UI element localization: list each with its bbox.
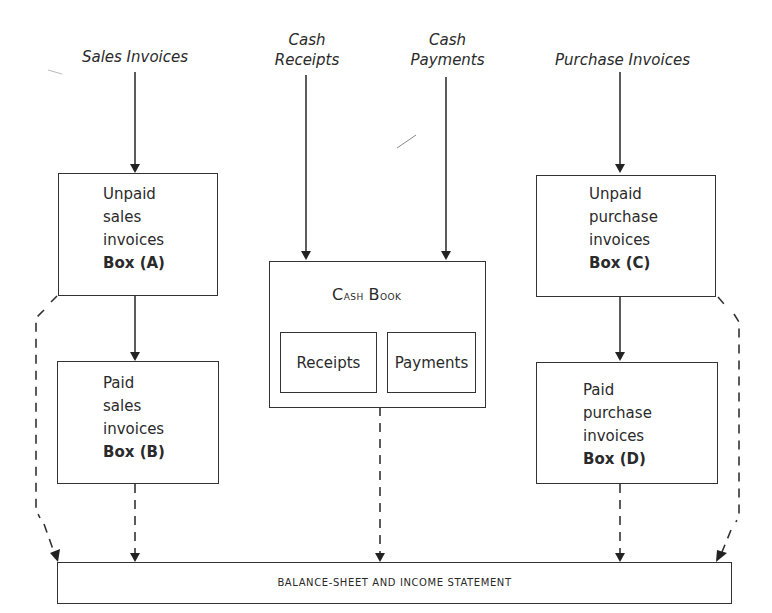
- box-a-unpaid-sales-invoices: Unpaid sales invoices Box (A): [58, 173, 218, 296]
- source-label: Sales Invoices: [82, 48, 188, 66]
- output-label: BALANCE-SHEET AND INCOME STATEMENT: [58, 577, 731, 588]
- box-tag: Box (C): [589, 252, 658, 275]
- source-label-line2: Receipts: [262, 50, 352, 70]
- box-line: invoices: [589, 229, 658, 252]
- accounting-flow-diagram: Sales Invoices Cash Receipts Cash Paymen…: [0, 0, 772, 613]
- box-a-text: Unpaid sales invoices Box (A): [103, 183, 165, 275]
- box-d-text: Paid purchase invoices Box (D): [583, 379, 652, 471]
- title-cap: C: [332, 285, 344, 304]
- box-tag: Box (B): [103, 441, 165, 464]
- box-line: Unpaid: [103, 183, 165, 206]
- cash-book-title: Cash Book: [332, 285, 402, 304]
- source-purchase-invoices: Purchase Invoices: [550, 50, 695, 70]
- balance-sheet-income-statement: BALANCE-SHEET AND INCOME STATEMENT: [57, 562, 732, 604]
- box-b-paid-sales-invoices: Paid sales invoices Box (B): [57, 361, 219, 484]
- box-line: invoices: [103, 418, 165, 441]
- box-line: sales: [103, 395, 165, 418]
- box-d-paid-purchase-invoices: Paid purchase invoices Box (D): [536, 362, 718, 484]
- box-b-text: Paid sales invoices Box (B): [103, 372, 165, 464]
- title-rest: ook: [380, 288, 402, 303]
- source-cash-receipts: Cash Receipts: [262, 30, 352, 70]
- box-line: purchase: [583, 402, 652, 425]
- title-cap: B: [368, 285, 379, 304]
- source-label-line1: Cash: [400, 30, 495, 50]
- receipts-label: Receipts: [297, 354, 361, 372]
- box-c-unpaid-purchase-invoices: Unpaid purchase invoices Box (C): [536, 175, 716, 297]
- box-line: sales: [103, 206, 165, 229]
- box-tag: Box (D): [583, 448, 652, 471]
- source-sales-invoices: Sales Invoices: [70, 47, 200, 67]
- cash-book: Cash Book Receipts Payments: [269, 261, 486, 408]
- box-line: purchase: [589, 206, 658, 229]
- cash-book-payments: Payments: [387, 332, 476, 393]
- box-line: Paid: [103, 372, 165, 395]
- title-rest: ash: [344, 288, 369, 303]
- box-tag: Box (A): [103, 252, 165, 275]
- box-line: invoices: [583, 425, 652, 448]
- source-cash-payments: Cash Payments: [400, 30, 495, 70]
- cash-book-receipts: Receipts: [280, 332, 377, 393]
- source-label-line2: Payments: [400, 50, 495, 70]
- box-c-text: Unpaid purchase invoices Box (C): [589, 183, 658, 275]
- source-label-line1: Cash: [262, 30, 352, 50]
- box-line: invoices: [103, 229, 165, 252]
- box-line: Unpaid: [589, 183, 658, 206]
- source-label: Purchase Invoices: [555, 51, 690, 69]
- payments-label: Payments: [395, 354, 468, 372]
- box-line: Paid: [583, 379, 652, 402]
